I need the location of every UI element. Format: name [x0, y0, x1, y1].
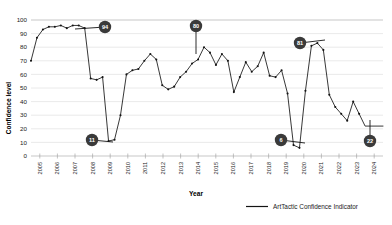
value-callouts: 94118068122	[75, 20, 376, 147]
data-point	[30, 60, 32, 62]
x-tick-label: 2023	[354, 162, 360, 174]
data-point	[66, 27, 68, 29]
data-point	[96, 79, 98, 81]
x-tick-label: 2022	[336, 162, 342, 174]
data-point	[60, 24, 62, 26]
data-point	[42, 28, 44, 30]
data-point	[185, 71, 187, 73]
x-tick-label: 2017	[248, 162, 254, 174]
x-tick-label: 2006	[54, 162, 60, 174]
x-axis-title: Year	[189, 190, 203, 197]
data-point	[179, 76, 181, 78]
callout-value: 81	[297, 40, 303, 46]
data-point	[102, 76, 104, 78]
data-point	[334, 106, 336, 108]
callout-badge-11: 11	[86, 134, 113, 146]
data-point	[36, 37, 38, 39]
data-point	[209, 52, 211, 54]
data-point	[203, 46, 205, 48]
data-point	[310, 45, 312, 47]
data-point	[251, 71, 253, 73]
y-tick-label: 10	[20, 139, 27, 146]
data-point	[245, 61, 247, 63]
y-tick-label: 0	[24, 152, 28, 159]
callout-badge-22: 22	[364, 120, 376, 147]
y-tick-label: 80	[20, 43, 27, 50]
data-point	[358, 113, 360, 115]
data-point	[322, 49, 324, 51]
data-point	[227, 60, 229, 62]
data-point	[72, 24, 74, 26]
y-axis-title: Confidence level	[5, 82, 12, 135]
x-tick-label: 2018	[266, 162, 272, 174]
x-tick-label: 2009	[107, 162, 113, 174]
y-tick-label: 50	[20, 84, 27, 91]
series-line-arttactic-confidence-indicator	[31, 25, 383, 147]
x-tick-label: 2020	[301, 162, 307, 174]
x-tick-label: 2012	[160, 162, 166, 174]
data-point	[281, 69, 283, 71]
data-point	[113, 139, 115, 141]
callout-badge-94: 94	[75, 21, 111, 33]
data-point	[137, 68, 139, 70]
data-point	[316, 42, 318, 44]
x-tick-label: 2005	[37, 162, 43, 174]
x-tick-label: 2013	[178, 162, 184, 174]
data-point	[298, 147, 300, 149]
y-tick-label: 60	[20, 71, 27, 78]
data-point	[352, 101, 354, 103]
data-point	[119, 114, 121, 116]
data-point	[173, 86, 175, 88]
data-point	[239, 76, 241, 78]
series-data-points	[30, 24, 360, 149]
data-point	[78, 24, 80, 26]
data-point	[257, 65, 259, 67]
x-tick-label: 2015	[213, 162, 219, 174]
data-point	[143, 60, 145, 62]
data-point	[54, 26, 56, 28]
legend: ArtTactic Confidence Indicator	[246, 203, 359, 210]
data-point	[292, 144, 294, 146]
data-point	[233, 91, 235, 93]
data-point	[328, 94, 330, 96]
y-tick-label: 100	[17, 16, 28, 23]
data-point	[48, 26, 50, 28]
data-point	[125, 73, 127, 75]
legend-label-arttactic-confidence-indicator: ArtTactic Confidence Indicator	[273, 203, 359, 210]
y-tick-label: 90	[20, 30, 27, 37]
y-tick-label: 40	[20, 98, 27, 105]
data-point	[149, 53, 151, 55]
x-axis-tick-labels: 2005200620072008200920102011201220132014…	[37, 162, 377, 174]
data-point	[269, 75, 271, 77]
x-tick-label: 2014	[195, 162, 201, 174]
confidence-indicator-chart: 0102030405060708090100 20052006200720082…	[0, 0, 392, 225]
data-point	[221, 53, 223, 55]
callout-value: 6	[279, 137, 282, 143]
y-axis-tick-labels: 0102030405060708090100	[17, 16, 28, 159]
x-tick-label: 2021	[318, 162, 324, 174]
data-point	[215, 64, 217, 66]
x-tick-label: 2016	[230, 162, 236, 174]
callout-value: 22	[367, 138, 373, 144]
data-point	[346, 120, 348, 122]
callout-badge-80: 80	[190, 20, 202, 54]
data-point	[263, 52, 265, 54]
data-point	[197, 58, 199, 60]
callout-value: 94	[102, 24, 109, 30]
callout-value: 11	[89, 137, 95, 143]
callout-value: 80	[193, 23, 199, 29]
data-point	[155, 58, 157, 60]
y-tick-label: 20	[20, 125, 27, 132]
data-point	[167, 88, 169, 90]
x-tick-label: 2010	[125, 162, 131, 174]
y-tick-label: 70	[20, 57, 27, 64]
data-point	[161, 84, 163, 86]
x-tick-label: 2011	[142, 162, 148, 174]
data-point	[131, 69, 133, 71]
chart-canvas: 0102030405060708090100 20052006200720082…	[0, 0, 392, 225]
data-point	[191, 62, 193, 64]
data-point	[286, 92, 288, 94]
data-point	[340, 113, 342, 115]
x-tick-label: 2008	[90, 162, 96, 174]
data-point	[90, 77, 92, 79]
